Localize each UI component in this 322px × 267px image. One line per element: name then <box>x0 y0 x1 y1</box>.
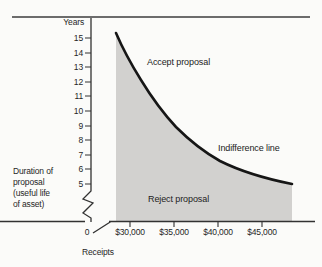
x-tick-label: $45,000 <box>240 227 284 237</box>
y-tick-label: 7 <box>59 150 83 160</box>
y-tick-label: 11 <box>59 91 83 101</box>
y-tick-label: 10 <box>59 106 83 116</box>
y-tick-label: 13 <box>59 62 83 72</box>
y-axis-title: Years <box>48 17 84 27</box>
x-tick-label: $40,000 <box>196 227 240 237</box>
y-tick-label: 6 <box>59 164 83 174</box>
origin-label: 0 <box>80 227 94 237</box>
duration-note: Duration of proposal (useful life of ass… <box>13 166 53 210</box>
y-axis <box>83 18 93 222</box>
duration-note-line: (useful life <box>13 188 53 199</box>
y-tick-label: 12 <box>59 77 83 87</box>
x-axis-title: Receipts <box>82 247 114 257</box>
y-tick-label: 14 <box>59 48 83 58</box>
duration-note-line: proposal <box>13 177 53 188</box>
y-axis-ticks <box>85 38 91 184</box>
y-tick-label: 15 <box>59 33 83 43</box>
indifference-line-chart: Years Receipts 15 14 13 12 11 10 9 8 7 6… <box>0 0 322 267</box>
indifference-line-label: Indifference line <box>218 143 280 153</box>
y-tick-label: 9 <box>59 121 83 131</box>
duration-note-line: Duration of <box>13 166 53 177</box>
reject-region-label: Reject proposal <box>148 194 209 204</box>
duration-note-line: of asset) <box>13 199 53 210</box>
x-tick-label: $30,000 <box>108 227 152 237</box>
y-tick-label: 5 <box>59 179 83 189</box>
accept-region-label: Accept proposal <box>147 57 210 67</box>
y-tick-label: 8 <box>59 135 83 145</box>
x-tick-label: $35,000 <box>152 227 196 237</box>
